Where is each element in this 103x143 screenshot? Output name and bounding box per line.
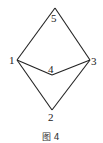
vertex-label-3: 3 [91, 55, 97, 67]
figure-caption: 图 4 [42, 132, 60, 142]
edge-5-3 [55, 8, 90, 60]
graph-figure: 1 2 3 4 5 图 4 [0, 0, 103, 143]
vertex-label-4: 4 [48, 63, 54, 75]
graph-diagram: 1 2 3 4 5 图 4 [0, 0, 103, 143]
edge-1-5 [17, 8, 55, 60]
vertex-label-5: 5 [51, 12, 57, 24]
vertex-label-1: 1 [9, 54, 15, 66]
vertex-label-2: 2 [48, 111, 54, 123]
